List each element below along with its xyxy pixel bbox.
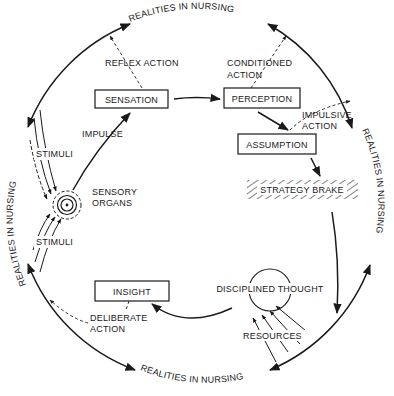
sensory-organs-label-2: ORGANS — [92, 198, 132, 208]
sensory-organs-label-1: SENSORY — [92, 187, 137, 197]
brake-to-outer-arrow — [332, 212, 338, 313]
stimuli-lower-label: STIMULI — [36, 237, 73, 247]
impulse-label: IMPULSE — [82, 129, 123, 139]
impulse-arrow — [73, 113, 130, 190]
conditioned-action-label-2: ACTION — [227, 70, 262, 80]
outer-label-left: REALITIES IN NURSING — [5, 180, 28, 288]
outer-label-top: REALITIES IN NURSING — [127, 1, 235, 24]
impulsive-action-label-2: ACTION — [302, 121, 337, 131]
sensation-to-perception-arrow — [174, 98, 220, 100]
insight-label: INSIGHT — [113, 287, 151, 297]
sensation-label: SENSATION — [105, 95, 158, 105]
arc-bottom-right — [270, 265, 370, 370]
resources-label: RESOURCES — [243, 331, 302, 341]
arc-top-left — [28, 24, 130, 127]
nursing-process-diagram: REALITIES IN NURSING REALITIES IN NURSIN… — [0, 0, 394, 396]
perception-label: PERCEPTION — [232, 94, 293, 104]
perception-to-assumption-arrow — [258, 112, 288, 130]
disciplined-thought-label: DISCIPLINED THOUGHT — [216, 284, 323, 294]
assumption-to-brake-arrow — [311, 158, 320, 176]
deliberate-action-label-1: DELIBERATE — [90, 313, 147, 323]
outer-label-right: REALITIES IN NURSING — [360, 127, 386, 234]
outer-label-bottom: REALITIES IN NURSING — [139, 363, 244, 385]
disciplined-to-insight-arrow — [152, 304, 232, 318]
conditioned-action-label-1: CONDITIONED — [227, 58, 293, 68]
assumption-label: ASSUMPTION — [246, 140, 308, 150]
strategy-brake-label: STRATEGY BRAKE — [260, 185, 344, 195]
deliberate-action-label-2: ACTION — [90, 324, 125, 334]
reflex-action-label: REFLEX ACTION — [105, 58, 179, 68]
stimuli-upper-label: STIMULI — [36, 149, 73, 159]
sensory-organs-node — [53, 191, 81, 219]
impulsive-action-label-1: IMPULSIVE — [302, 110, 352, 120]
